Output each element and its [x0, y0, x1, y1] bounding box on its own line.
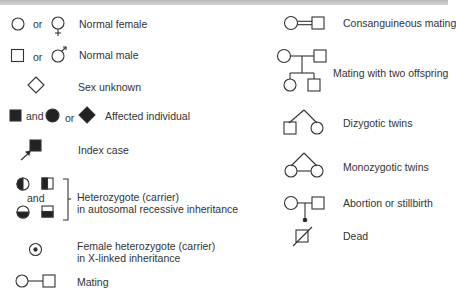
- affected-diamond-icon: [78, 106, 96, 124]
- abortion-stillbirth-icon: [283, 195, 327, 225]
- bracket-icon: [62, 178, 72, 223]
- label-affected: Affected individual: [105, 110, 190, 123]
- monozygotic-twins-icon: [282, 152, 326, 180]
- consanguineous-mating-icon: [283, 15, 327, 31]
- label-mating: Mating: [77, 276, 109, 289]
- bottom-filled-circle-icon: [16, 205, 32, 221]
- label-index-case: Index case: [78, 144, 129, 157]
- bottom-filled-square-icon: [41, 205, 55, 219]
- conjunction-or: or: [65, 112, 74, 124]
- dotted-circle-icon: [28, 242, 44, 258]
- label-normal-female: Normal female: [79, 18, 147, 31]
- label-mating-two-offspring: Mating with two offspring: [333, 67, 448, 80]
- dead-crossed-square-icon: [292, 226, 314, 248]
- male-square-icon: [10, 48, 26, 64]
- label-consanguineous-mating: Consanguineous mating: [343, 17, 456, 30]
- mating-two-offspring-icon: [276, 48, 328, 94]
- dizygotic-twins-icon: [282, 109, 326, 137]
- label-heterozygote-line2: in autosomal recessive inheritance: [77, 203, 238, 216]
- label-dead: Dead: [343, 230, 368, 243]
- venus-symbol-icon: [50, 16, 66, 38]
- conjunction-or: or: [33, 18, 42, 30]
- conjunction-and: and: [27, 192, 45, 204]
- label-abortion-stillbirth: Abortion or stillbirth: [343, 197, 433, 210]
- top-border-band: [0, 0, 448, 5]
- half-filled-square-icon: [41, 177, 55, 191]
- label-sex-unknown: Sex unknown: [78, 81, 141, 94]
- conjunction-or: or: [33, 51, 42, 63]
- label-monozygotic-twins: Monozygotic twins: [343, 161, 429, 174]
- label-dizygotic-twins: Dizygotic twins: [343, 117, 412, 130]
- index-case-arrow-icon: [18, 139, 44, 163]
- affected-circle-icon: [45, 108, 61, 124]
- female-circle-icon: [10, 16, 26, 32]
- conjunction-and: and: [26, 110, 44, 122]
- half-filled-circle-icon: [16, 177, 32, 193]
- mating-icon: [15, 273, 57, 289]
- label-female-heterozygote-line2: in X-linked inheritance: [77, 252, 180, 265]
- diamond-icon: [27, 76, 45, 94]
- mars-symbol-icon: [50, 45, 70, 65]
- label-normal-male: Normal male: [79, 49, 139, 62]
- affected-square-icon: [9, 109, 23, 123]
